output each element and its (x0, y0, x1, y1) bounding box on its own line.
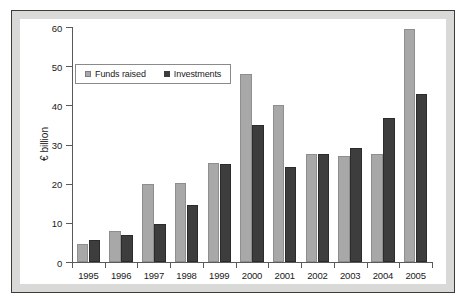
x-axis-label-2005: 2005 (399, 270, 432, 281)
bar-investments-1999 (220, 164, 232, 262)
legend-label: Investments (174, 69, 221, 79)
x-axis-tick (268, 263, 269, 268)
bar-funds-raised-1995 (77, 244, 89, 262)
legend-label: Funds raised (95, 69, 146, 79)
legend-item-funds-raised: Funds raised (85, 69, 146, 79)
chart-plot-card: € billion 0102030405060 1995199619971998… (20, 19, 446, 284)
legend-swatch-icon (85, 71, 91, 77)
x-axis-tick (301, 263, 302, 268)
bar-funds-raised-1998 (175, 183, 187, 263)
bar-investments-1997 (154, 224, 166, 262)
x-axis-tick (334, 263, 335, 268)
bar-investments-2004 (383, 118, 395, 262)
x-axis-tick (137, 263, 138, 268)
bar-investments-1998 (187, 205, 199, 262)
x-axis-label-1998: 1998 (170, 270, 203, 281)
x-axis-label-2001: 2001 (268, 270, 301, 281)
chart-legend: Funds raisedInvestments (75, 64, 231, 84)
bar-investments-2001 (285, 167, 297, 262)
x-axis-label-1996: 1996 (105, 270, 138, 281)
x-axis-label-2003: 2003 (334, 270, 367, 281)
y-axis-tick-label: 50 (52, 61, 62, 72)
bar-funds-raised-1996 (109, 231, 121, 262)
x-axis-tick (170, 263, 171, 268)
x-axis-label-1997: 1997 (137, 270, 170, 281)
bar-funds-raised-1997 (142, 184, 154, 262)
y-axis-tick-label: 20 (52, 179, 62, 190)
bar-investments-2000 (252, 125, 264, 262)
y-axis-tick-label: 60 (52, 22, 62, 33)
y-axis-title: € billion (39, 127, 50, 161)
x-axis-tick (236, 263, 237, 268)
x-axis-label-2002: 2002 (301, 270, 334, 281)
bar-investments-1995 (89, 240, 101, 262)
x-axis-label-2000: 2000 (236, 270, 269, 281)
y-axis-tick-label: 10 (52, 218, 62, 229)
bar-funds-raised-2004 (371, 154, 383, 262)
x-axis-tick (367, 263, 368, 268)
x-axis-label-1999: 1999 (203, 270, 236, 281)
x-axis-tick (432, 263, 433, 268)
legend-swatch-icon (164, 71, 170, 77)
x-axis-tick (203, 263, 204, 268)
x-axis-line (72, 262, 433, 263)
bar-funds-raised-2005 (404, 29, 416, 262)
bar-investments-2003 (350, 148, 362, 262)
figure: € billion 0102030405060 1995199619971998… (0, 0, 466, 302)
bar-funds-raised-2002 (306, 154, 318, 262)
bar-funds-raised-2000 (240, 74, 252, 262)
x-axis-tick (72, 263, 73, 268)
x-axis-label-1995: 1995 (72, 270, 105, 281)
bar-funds-raised-2001 (273, 105, 285, 262)
y-axis-tick-label: 40 (52, 100, 62, 111)
y-axis-tick-label: 30 (52, 140, 62, 151)
bar-investments-2002 (318, 154, 330, 262)
bar-funds-raised-2003 (338, 156, 350, 262)
bar-investments-2005 (416, 94, 428, 262)
x-axis-tick (105, 263, 106, 268)
x-axis-tick (399, 263, 400, 268)
legend-item-investments: Investments (164, 69, 221, 79)
bar-investments-1996 (121, 235, 133, 262)
y-axis-tick-label: 0 (57, 257, 62, 268)
bar-funds-raised-1999 (208, 163, 220, 262)
x-axis-label-2004: 2004 (367, 270, 400, 281)
bars-layer (72, 27, 432, 262)
